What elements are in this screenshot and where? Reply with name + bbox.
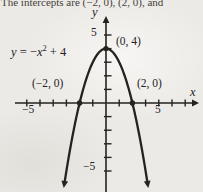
y-tick-label-5: 5 <box>91 27 97 39</box>
equation-relation: = − <box>17 45 37 59</box>
point-label-vertex: (0, 4) <box>116 36 141 48</box>
caption-clip: The intercepts are (−2, 0), (2, 0), and <box>0 0 203 8</box>
graph-svg <box>0 0 203 192</box>
x-tick-label-neg5: −5 <box>22 104 34 116</box>
point-label-right-intercept: (2, 0) <box>137 78 162 90</box>
caption-fragment: The intercepts are (−2, 0), (2, 0), and <box>1 0 163 8</box>
equation-label: y = −x2 + 4 <box>11 46 66 59</box>
equation-rest: + 4 <box>47 45 67 59</box>
x-tick-label-5: 5 <box>155 104 161 116</box>
point-label-left-intercept: (−2, 0) <box>32 78 63 90</box>
textbook-figure: The intercepts are (−2, 0), (2, 0), and … <box>0 0 203 192</box>
y-tick-label-neg5: −5 <box>83 161 95 173</box>
x-axis-letter: x <box>190 86 196 99</box>
y-axis-letter: y <box>92 6 98 19</box>
